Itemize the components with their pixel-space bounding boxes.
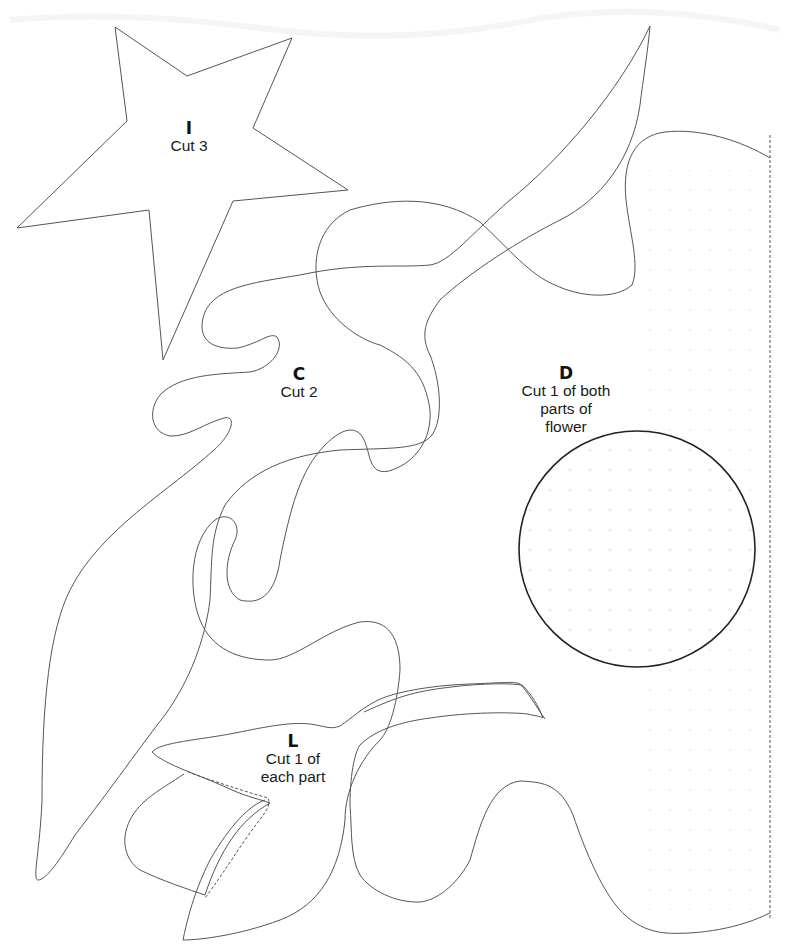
piece-instruction: Cut 2 <box>280 383 317 401</box>
piece-letter: I <box>170 119 207 137</box>
pattern-sheet <box>0 0 788 949</box>
piece-instruction-line2: parts of <box>522 400 611 418</box>
piece-instruction-line2: each part <box>261 768 326 786</box>
label-piece-d: D Cut 1 of both parts of flower <box>522 364 611 436</box>
label-piece-c: C Cut 2 <box>280 365 317 401</box>
piece-letter: L <box>261 732 326 750</box>
piece-letter: D <box>522 364 611 382</box>
piece-l-leaf-inner-outline <box>125 752 270 895</box>
piece-i-star-outline <box>17 27 348 360</box>
piece-letter: C <box>280 365 317 383</box>
scan-artifact <box>10 12 780 36</box>
piece-d-circle <box>519 431 755 667</box>
piece-instruction-line1: Cut 1 of <box>261 750 326 768</box>
piece-instruction-line1: Cut 1 of both <box>522 382 611 400</box>
piece-l-dashed-seam <box>188 772 269 898</box>
label-piece-l: L Cut 1 of each part <box>261 732 326 786</box>
piece-instruction-line3: flower <box>522 418 611 436</box>
piece-instruction: Cut 3 <box>170 137 207 155</box>
piece-stem-outline <box>36 26 650 880</box>
piece-l-leaf-outline <box>152 682 545 752</box>
label-piece-i: I Cut 3 <box>170 119 207 155</box>
